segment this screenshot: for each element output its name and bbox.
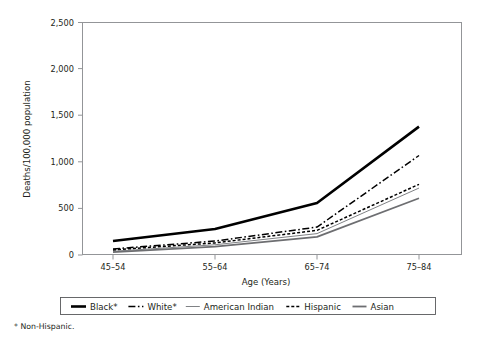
legend-label: Asian: [371, 302, 394, 312]
legend-label: Hispanic: [304, 302, 341, 312]
legend-item-hispanic[interactable]: Hispanic: [286, 302, 341, 312]
y-axis-tick-labels: 0 500 1,000 1,500 2,000 2,500: [51, 18, 74, 261]
series-line-asian: [113, 198, 419, 252]
y-tick-label: 2,500: [51, 18, 74, 28]
y-tick-label: 1,500: [51, 110, 74, 120]
y-tick-label: 2,000: [51, 64, 74, 74]
legend: Black*White*American IndianHispanicAsian: [71, 302, 394, 312]
y-tick-label: 0: [69, 250, 74, 260]
figure-container: 0 500 1,000 1,500 2,000 2,500 Deaths/100…: [0, 0, 482, 339]
y-tick-label: 1,000: [51, 157, 74, 167]
x-axis-title: Age (Years): [242, 277, 291, 287]
legend-label: Black*: [90, 302, 118, 312]
legend-label: American Indian: [204, 302, 274, 312]
line-chart: 0 500 1,000 1,500 2,000 2,500 Deaths/100…: [0, 0, 482, 339]
series-line-black: [113, 127, 419, 241]
x-axis-ticks: [113, 255, 419, 260]
y-axis-ticks: [78, 23, 83, 256]
y-axis-title: Deaths/100,000 population: [22, 80, 32, 197]
x-tick-label: 45–54: [101, 262, 126, 272]
legend-label: White*: [147, 302, 177, 312]
legend-item-asian[interactable]: Asian: [353, 302, 394, 312]
x-tick-label: 65–74: [305, 262, 330, 272]
x-tick-label: 55–64: [203, 262, 228, 272]
series-layer: [113, 127, 419, 253]
legend-item-american-indian[interactable]: American Indian: [186, 302, 274, 312]
y-tick-label: 500: [58, 203, 74, 213]
legend-item-white[interactable]: White*: [128, 302, 177, 312]
footnote: * Non-Hispanic.: [14, 322, 74, 331]
x-axis-tick-labels: 45–54 55–64 65–74 75–84: [101, 262, 432, 272]
legend-item-black[interactable]: Black*: [71, 302, 118, 312]
x-tick-label: 75–84: [407, 262, 432, 272]
